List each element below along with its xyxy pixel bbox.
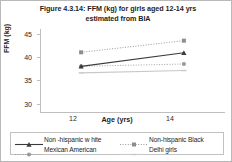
legend-item-delhi-girls[interactable]: Delhi girls <box>119 144 223 154</box>
y-tick-label-45: 45 <box>24 30 32 37</box>
x-axis-title: Age (yrs) <box>1 115 232 124</box>
legend-item-mexican-american[interactable]: Mexican American <box>11 144 119 154</box>
series-non-hispanic-black <box>79 39 186 55</box>
legend-item-non-hispanic-black[interactable]: Non-hispanic Black <box>119 134 223 144</box>
legend: Non -hispanic w hite Non-hispanic Black … <box>10 132 224 155</box>
legend-key-triangle-icon <box>14 135 44 144</box>
legend-key-circle-icon <box>14 145 44 154</box>
series-mexican-american <box>79 62 186 69</box>
series-line-non-hispanic-white <box>81 53 184 67</box>
chart-title: Figure 4.3.14: FFM (kg) for girls aged 1… <box>23 4 213 23</box>
legend-label-mexican-american: Mexican American <box>44 146 96 153</box>
legend-key-square-icon <box>119 135 149 144</box>
plot-area: 45 40 35 30 <box>40 29 225 113</box>
legend-item-non-hispanic-white[interactable]: Non -hispanic w hite <box>11 134 119 144</box>
series-line-delhi-girls <box>81 71 184 73</box>
legend-label-non-hispanic-black: Non-hispanic Black <box>149 136 204 143</box>
y-tick-label-40: 40 <box>24 54 32 61</box>
legend-label-delhi-girls: Delhi girls <box>149 146 177 153</box>
y-tick-label-30: 30 <box>24 100 32 107</box>
series-markers-mexican-american <box>79 62 186 69</box>
series-markers-non-hispanic-black <box>79 39 186 55</box>
legend-label-non-hispanic-white: Non -hispanic w hite <box>44 136 101 143</box>
y-tick-label-35: 35 <box>24 77 32 84</box>
series-layer <box>40 29 225 113</box>
legend-row: Non -hispanic w hite Non-hispanic Black <box>11 134 223 144</box>
y-axis-title: FFM (kg) <box>3 24 10 53</box>
series-line-non-hispanic-black <box>81 41 184 53</box>
legend-row: Mexican American Delhi girls <box>11 144 223 154</box>
series-delhi-girls <box>79 70 187 74</box>
figure-container: Figure 4.3.14: FFM (kg) for girls aged 1… <box>0 0 232 162</box>
legend-key-dash-icon <box>119 145 149 154</box>
